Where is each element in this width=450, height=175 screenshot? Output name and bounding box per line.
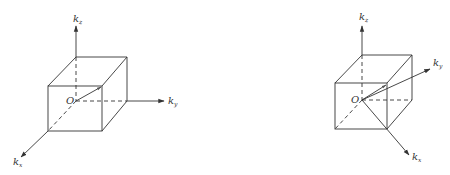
- kx-label: kx: [13, 156, 23, 168]
- bottom-right-edge: [102, 101, 127, 131]
- origin-label: O: [66, 95, 74, 106]
- diagonal-vector-arrow: [76, 87, 101, 101]
- kz-label: kz: [73, 13, 83, 25]
- bottom-right-edge: [387, 100, 412, 129]
- ky-label: ky: [168, 95, 178, 108]
- kz-label: kz: [359, 11, 369, 23]
- kx-axis-arrow: [21, 131, 48, 157]
- front-face: [48, 86, 102, 131]
- left-cube-diagram: O kz ky kx: [13, 13, 178, 168]
- top-left-edge: [335, 55, 362, 83]
- k-space-diagram-canvas: O kz ky kx O kz ky kx: [0, 0, 450, 175]
- kx-label: kx: [412, 151, 422, 163]
- top-right-edge: [102, 57, 127, 86]
- right-cube-diagram: O kz ky kx: [335, 11, 443, 163]
- ky-axis-arrow: [362, 69, 430, 100]
- origin-label: O: [351, 94, 359, 105]
- diagonal-vector-arrow: [362, 85, 386, 100]
- ky-label: ky: [433, 57, 443, 70]
- kx-axis-arrow: [362, 100, 409, 155]
- front-face: [335, 83, 387, 129]
- top-left-edge: [48, 57, 76, 86]
